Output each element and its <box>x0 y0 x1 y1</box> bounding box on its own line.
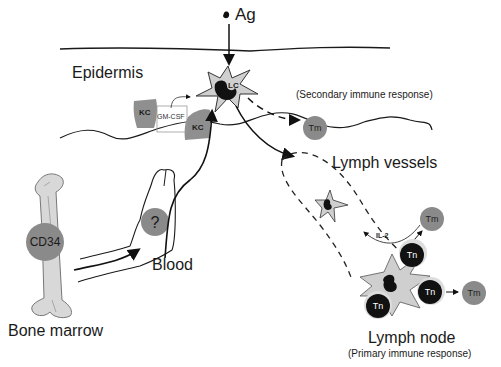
primary-response-label: (Primary immune response) <box>348 348 471 359</box>
cd34-label: CD34 <box>30 235 61 249</box>
tm-label-right: Tm <box>468 288 481 298</box>
tn-label-1: Tn <box>407 250 418 260</box>
secondary-dashed-arrow <box>248 98 298 120</box>
bone-marrow-label: Bone marrow <box>8 322 104 339</box>
immune-pathway-diagram: Ag Epidermis KC KC GM-CSF LC (Secondary … <box>0 0 501 367</box>
tn-label-2: Tn <box>425 287 436 297</box>
kc-label-1: KC <box>139 108 151 117</box>
blood-label: Blood <box>152 256 193 273</box>
lymph-vessel-outline-inner <box>282 160 352 280</box>
migration-arrow <box>236 106 292 156</box>
gm-csf-label: GM-CSF <box>157 113 185 120</box>
lymph-node-label: Lymph node <box>368 329 456 346</box>
tm-label-skin: Tm <box>309 123 322 133</box>
tn-label-3: Tn <box>373 301 384 311</box>
antigen-label: Ag <box>235 5 256 24</box>
lymph-vessels-label: Lymph vessels <box>332 154 437 171</box>
antigen-icon <box>223 12 229 19</box>
blood-vessel-inner-path <box>164 170 166 186</box>
basement-membrane-line <box>60 113 432 139</box>
lc-label: LC <box>228 81 239 90</box>
precursor-label: ? <box>151 214 160 231</box>
epidermis-label: Epidermis <box>72 64 143 81</box>
secondary-response-label: (Secondary immune response) <box>296 89 433 100</box>
il2-label: IL-2 <box>376 232 389 239</box>
diagram-svg: Ag Epidermis KC KC GM-CSF LC (Secondary … <box>0 0 501 367</box>
tm-label-top: Tm <box>426 214 439 224</box>
tn-to-tm-arrow-top <box>414 231 422 240</box>
kc-label-2: KC <box>192 123 204 132</box>
skin-surface-line <box>60 47 390 51</box>
